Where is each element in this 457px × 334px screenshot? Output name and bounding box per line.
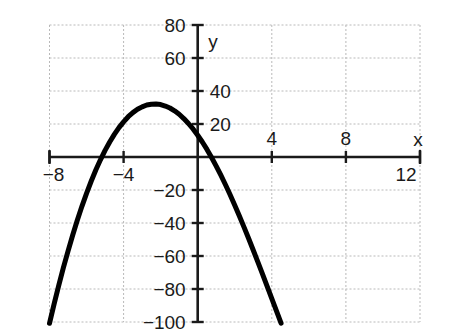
x-tick-label: 8 [341,128,352,149]
y-tick-label: 20 [210,114,231,135]
y-tick-label: −20 [153,180,185,201]
cubic-function-graph: −8−44812 80604020−20−40−60−80−100 x y [0,0,457,334]
x-axis-label: x [413,129,423,150]
chart-canvas: −8−44812 80604020−20−40−60−80−100 x y [0,0,457,334]
y-tick-label: 60 [165,48,186,69]
y-tick-label: −80 [153,279,185,300]
y-tick-label: −60 [153,246,185,267]
y-tick-label: −100 [143,312,186,333]
chart-background [0,0,457,334]
x-tick-label: −4 [113,164,135,185]
y-tick-label: 80 [165,15,186,36]
x-tick-label: −8 [43,164,65,185]
x-tick-label: 4 [267,128,278,149]
y-tick-label: −40 [153,213,185,234]
y-axis-label: y [208,31,218,52]
x-tick-label: 12 [395,164,416,185]
y-tick-label: 40 [210,81,231,102]
